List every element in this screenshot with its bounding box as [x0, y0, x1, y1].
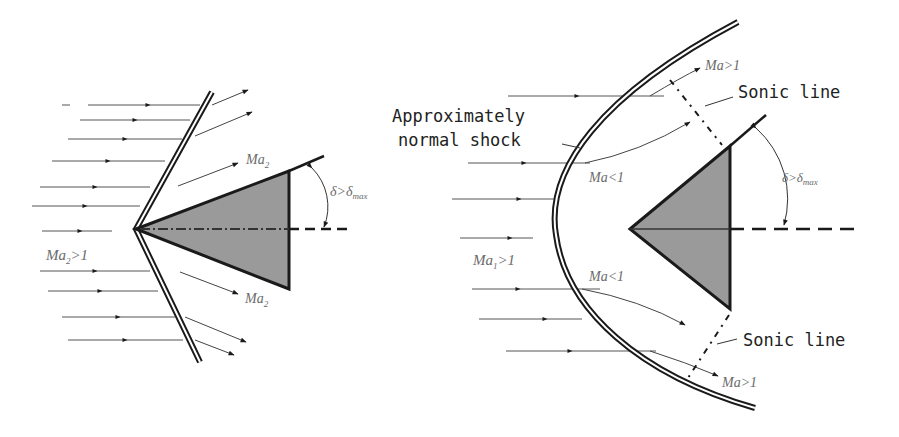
label-ma-sub-lower: Ma<1	[588, 269, 624, 284]
wedge-extension-right	[730, 115, 766, 146]
label-angle-left: δ>δmax	[330, 184, 367, 201]
label-shock-line1: Approximately	[392, 106, 525, 126]
label-ma-super-lower: Ma>1	[721, 375, 757, 390]
label-sonic-line-lower: Sonic line	[743, 330, 845, 350]
label-ma2-lower: Ma2	[244, 291, 269, 309]
sonic-line-upper-curve	[670, 80, 722, 145]
label-freestream-right: Ma1>1	[472, 252, 515, 271]
label-shock-line2: normal shock	[398, 130, 521, 150]
label-freestream-left: Ma2>1	[45, 247, 88, 266]
angle-arc-left	[312, 168, 328, 227]
wedge-extension-left	[289, 156, 324, 171]
label-ma-sub-upper: Ma<1	[588, 170, 624, 185]
leader-sonic-upper	[705, 97, 733, 106]
shock-diagram: Ma2 Ma2 Ma2>1 δ>δmax	[0, 0, 899, 437]
left-panel: Ma2 Ma2 Ma2>1 δ>δmax	[32, 90, 367, 362]
right-panel: Approximately normal shock Sonic line So…	[392, 22, 858, 408]
sonic-line-lower-curve	[688, 315, 729, 378]
label-sonic-line-upper: Sonic line	[738, 82, 840, 102]
label-ma2-upper: Ma2	[245, 152, 270, 170]
label-ma-super-upper: Ma>1	[704, 58, 740, 73]
wedge-right	[630, 146, 730, 309]
leader-sonic-lower	[717, 339, 737, 344]
label-angle-right: δ>δmax	[782, 170, 818, 187]
